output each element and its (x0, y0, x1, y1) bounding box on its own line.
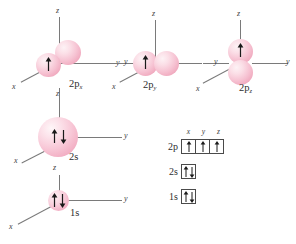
orbital-name-2py-text: 2p (143, 79, 154, 90)
orbital-lobe-2py-right (154, 51, 179, 76)
axis-label-y-2s: y (124, 132, 128, 140)
axis-label-y-1s: y (124, 195, 128, 203)
orbital-name-2py-sub: y (154, 84, 157, 91)
orbital-box-header-z: z (211, 128, 226, 136)
orbital-box-2s[interactable] (181, 164, 196, 179)
orbital-box-row-1s: 1s (160, 189, 196, 204)
orbital-box-header-x: x (181, 128, 196, 136)
spin-arrow-2s-up (51, 129, 58, 144)
axis-label-y-2pz-right: y (286, 58, 290, 66)
orbital-box-2p-z[interactable] (209, 139, 224, 154)
orbital-box-headers: x y z (181, 128, 226, 136)
orbital-box-2p-x[interactable] (181, 139, 196, 154)
orbital-box-row-2p: 2p (160, 139, 224, 154)
axis-label-x-2pz: x (196, 85, 200, 93)
spin-arrow-2px (45, 57, 52, 72)
orbital-name-2px: 2px (69, 79, 82, 90)
orbital-name-2px-sub: x (80, 83, 83, 90)
axis-label-z-2pz: z (237, 10, 240, 18)
orbital-name-2pz: 2pz (239, 83, 252, 94)
spin-arrow-1s-up (51, 193, 58, 208)
spin-arrow-2s-down (60, 129, 67, 144)
axis-label-z-2px: z (56, 7, 59, 15)
axis-label-z-1s: z (53, 164, 56, 172)
orbital-name-2pz-sub: z (250, 87, 253, 94)
spin-arrow-2pz (237, 43, 244, 58)
axis-y-2pz-right (252, 63, 288, 64)
orbital-box-header-y: y (196, 128, 211, 136)
orbital-name-2px-text: 2p (69, 78, 80, 89)
axis-label-y-2pz-left: y (214, 58, 218, 66)
orbital-figure: z y x 2px z y x (0, 0, 296, 244)
orbital-box-label-1s: 1s (160, 192, 178, 202)
axis-y-2s (75, 137, 122, 138)
axis-label-y-2py: y (124, 58, 128, 66)
orbital-box-label-2s: 2s (160, 167, 178, 177)
orbital-box-cells-1s (181, 189, 196, 204)
axis-label-x-2s: x (14, 157, 18, 165)
orbital-box-1s[interactable] (181, 189, 196, 204)
orbital-box-label-2p: 2p (160, 142, 178, 152)
axis-z-2s (59, 88, 60, 118)
orbital-name-2py: 2py (143, 80, 156, 91)
orbital-box-row-2s: 2s (160, 164, 196, 179)
orbital-name-1s: 1s (70, 208, 79, 219)
orbital-box-2p-y[interactable] (195, 139, 210, 154)
axis-label-x-2py: x (112, 83, 116, 91)
axis-label-x-1s: x (9, 223, 13, 231)
axis-label-z-2s: z (56, 90, 59, 98)
axis-label-x-2px: x (12, 83, 16, 91)
orbital-box-cells-2p (181, 139, 224, 154)
orbital-name-2s: 2s (69, 152, 78, 163)
axis-y-1s (68, 200, 122, 201)
orbital-name-2pz-text: 2p (239, 82, 250, 93)
orbital-box-cells-2s (181, 164, 196, 179)
spin-arrow-1s-down (59, 193, 66, 208)
axis-label-z-2py: z (152, 10, 155, 18)
spin-arrow-2py (142, 55, 149, 70)
